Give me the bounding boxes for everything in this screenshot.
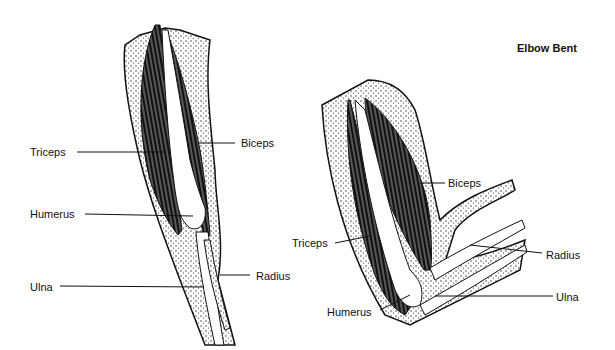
right-label-humerus: Humerus [327, 306, 372, 318]
left-label-humerus: Humerus [30, 208, 75, 220]
left-label-radius: Radius [256, 270, 290, 282]
right-arm-bent [322, 80, 527, 325]
elbow-diagram: Elbow Bent Triceps Biceps Humerus Radius… [0, 0, 615, 350]
right-label-ulna: Ulna [556, 291, 579, 303]
right-label-triceps: Triceps [292, 237, 328, 249]
left-label-ulna: Ulna [30, 281, 53, 293]
left-label-biceps: Biceps [241, 137, 274, 149]
right-label-biceps: Biceps [448, 177, 481, 189]
left-arm-straight [124, 25, 235, 345]
right-label-radius: Radius [546, 249, 580, 261]
left-label-triceps: Triceps [30, 146, 66, 158]
diagram-title: Elbow Bent [517, 42, 577, 54]
